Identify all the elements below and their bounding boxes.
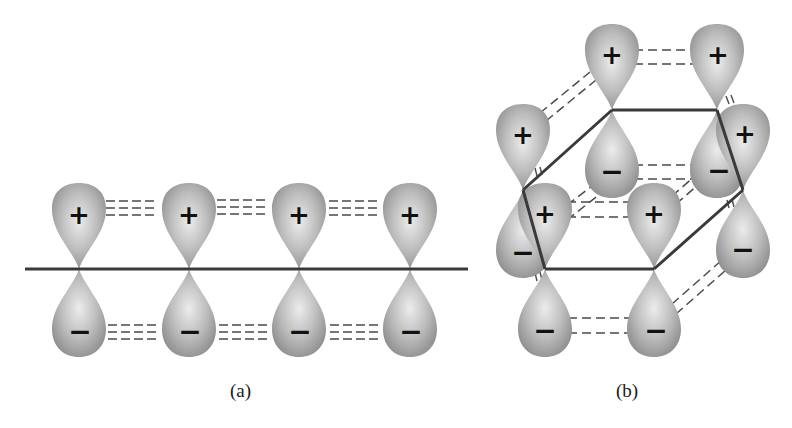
minus-sign: − [511,236,534,269]
minus-sign: − [731,233,754,266]
panel-a-diagram: + + + + − − − − [25,183,468,357]
panel-b-diagram: + + + + + + − − − − − − [496,24,770,357]
plus-sign: + [288,200,310,230]
minus-sign: − [399,315,422,348]
p-orbital-figure: + + + + − − − − [0,0,792,428]
overlap-dashes-bottom [108,325,381,339]
minus-sign: − [178,315,201,348]
minus-sign: − [644,314,667,347]
plus-sign: + [512,120,534,150]
plus-sign: + [643,199,665,229]
minus-sign: − [68,315,91,348]
minus-sign: − [288,315,311,348]
plus-sign: + [734,119,756,149]
plus-sign: + [707,40,729,70]
overlap-dashes-top [106,200,380,215]
plus-sign: + [178,200,200,230]
plus-sign: + [68,200,90,230]
plus-sign: + [601,40,623,70]
caption-panel-a: (a) [230,380,251,402]
minus-sign: − [600,155,623,188]
caption-panel-b: (b) [616,380,638,402]
minus-sign: − [707,154,730,187]
plus-sign: + [534,199,556,229]
plus-sign: + [399,200,421,230]
minus-sign: − [533,314,556,347]
